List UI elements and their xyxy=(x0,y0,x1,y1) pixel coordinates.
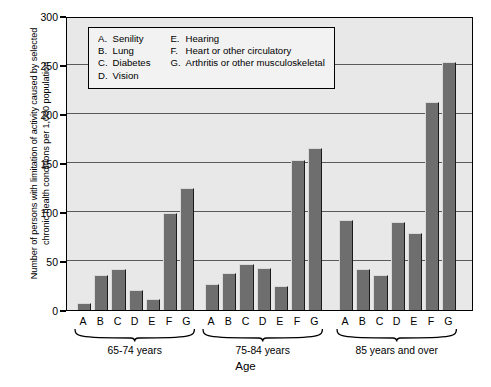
x-axis-category-label: E xyxy=(145,315,159,327)
legend-label: Hearing xyxy=(186,33,325,45)
x-axis-title: Age xyxy=(0,360,491,372)
bar xyxy=(163,213,177,310)
bar xyxy=(356,269,370,310)
x-axis-category-label: B xyxy=(221,315,235,327)
bar xyxy=(339,220,353,310)
legend-row: C.DiabetesG.Arthritis or other musculosk… xyxy=(98,57,325,69)
x-axis-category-label: A xyxy=(204,315,218,327)
x-axis-category-label: B xyxy=(355,315,369,327)
legend-key xyxy=(170,70,185,82)
bar xyxy=(257,268,271,310)
bar xyxy=(205,284,219,310)
bar xyxy=(391,222,405,310)
group-label: 75-84 years xyxy=(202,345,323,356)
legend-label: Heart or other circulatory xyxy=(186,45,325,57)
x-axis-category-label: G xyxy=(307,315,321,327)
y-axis-title: Number of persons with limitation of act… xyxy=(29,10,52,298)
legend-row: D.Vision xyxy=(98,70,325,82)
group-brace xyxy=(202,329,323,342)
bar xyxy=(239,264,253,310)
x-axis-category-label: D xyxy=(256,315,270,327)
legend-key: G. xyxy=(170,57,185,69)
gridline xyxy=(67,211,472,212)
group-label: 65-74 years xyxy=(74,345,195,356)
legend-key: D. xyxy=(98,70,113,82)
chart-figure: Number of persons with limitation of act… xyxy=(0,0,491,387)
y-axis-tick-label: 300 xyxy=(28,12,58,23)
x-axis-category-label: C xyxy=(111,315,125,327)
bar xyxy=(222,273,236,310)
bar xyxy=(94,275,108,310)
legend-label: Arthritis or other musculoskeletal xyxy=(186,57,325,69)
legend-row: A.SenilityE.Hearing xyxy=(98,33,325,45)
x-axis-category-label: B xyxy=(93,315,107,327)
x-axis-category-label: F xyxy=(424,315,438,327)
bar xyxy=(77,303,91,310)
y-axis-tick-label: 150 xyxy=(28,159,58,170)
legend-row: B.LungF.Heart or other circulatory xyxy=(98,45,325,57)
legend-table: A.SenilityE.HearingB.LungF.Heart or othe… xyxy=(98,33,325,82)
x-axis-category-label: G xyxy=(179,315,193,327)
x-axis-category-label: C xyxy=(373,315,387,327)
legend-key: B. xyxy=(98,45,113,57)
y-axis-title-line2: chronic health conditions per 1,000 popu… xyxy=(40,10,52,298)
legend-key: C. xyxy=(98,57,113,69)
bar xyxy=(111,269,125,310)
bar xyxy=(180,188,194,310)
bar xyxy=(408,233,422,310)
x-axis-category-label: A xyxy=(338,315,352,327)
legend-key: A. xyxy=(98,33,113,45)
bar xyxy=(291,160,305,310)
bar xyxy=(129,290,143,310)
legend-box: A.SenilityE.HearingB.LungF.Heart or othe… xyxy=(88,27,335,89)
legend-key: F. xyxy=(170,45,185,57)
x-axis-category-label: E xyxy=(273,315,287,327)
y-axis-tick-label: 200 xyxy=(28,110,58,121)
bar xyxy=(442,62,456,310)
x-axis-category-label: D xyxy=(390,315,404,327)
legend-label: Vision xyxy=(113,70,171,82)
legend-label: Senility xyxy=(113,33,171,45)
legend-key: E. xyxy=(170,33,185,45)
group-brace xyxy=(74,329,195,342)
y-axis-tick-label: 50 xyxy=(28,257,58,268)
bar xyxy=(308,148,322,310)
group-label: 85 years and over xyxy=(336,345,457,356)
bar xyxy=(373,275,387,310)
bar xyxy=(146,299,160,310)
y-axis-tick-label: 100 xyxy=(28,208,58,219)
group-brace xyxy=(336,329,457,342)
legend-label: Lung xyxy=(113,45,171,57)
gridline xyxy=(67,162,472,163)
x-axis-category-label: A xyxy=(76,315,90,327)
x-axis-category-label: D xyxy=(128,315,142,327)
y-axis-tick-label: 250 xyxy=(28,61,58,72)
bar xyxy=(274,286,288,310)
bar xyxy=(425,102,439,310)
x-axis-category-label: G xyxy=(441,315,455,327)
y-axis-tick-label: 0 xyxy=(28,306,58,317)
legend-label: Diabetes xyxy=(113,57,171,69)
legend-label xyxy=(186,70,325,82)
x-axis-category-label: F xyxy=(290,315,304,327)
x-axis-category-label: E xyxy=(407,315,421,327)
gridline xyxy=(67,113,472,114)
x-axis-category-label: C xyxy=(239,315,253,327)
x-axis-category-label: F xyxy=(162,315,176,327)
